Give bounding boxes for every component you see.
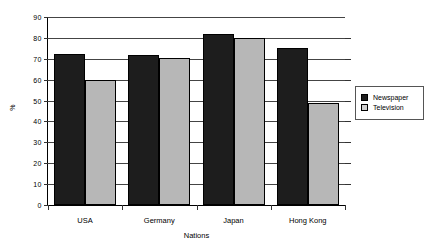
- x-axis-label: Hong Kong: [289, 216, 327, 225]
- bar-newspaper-usa: [54, 54, 85, 205]
- bar-newspaper-hong-kong: [277, 48, 308, 205]
- bar-chart: % 0102030405060708090 USAGermanyJapanHon…: [0, 0, 430, 241]
- right-axis-tick: [345, 142, 351, 143]
- x-axis-tick: [345, 205, 346, 210]
- y-axis-tick-label: 90: [33, 14, 42, 21]
- right-axis-tick: [345, 38, 351, 39]
- y-axis-tick-label: 10: [33, 181, 42, 188]
- y-axis-tick-label: 30: [33, 139, 42, 146]
- y-axis-tick-label: 70: [33, 55, 42, 62]
- plot-area: 0102030405060708090 USAGermanyJapanHong …: [47, 17, 345, 206]
- y-axis-tick-label: 0: [38, 202, 42, 209]
- legend-label-newspaper: Newspaper: [373, 94, 408, 101]
- right-axis-tick: [345, 59, 351, 60]
- x-axis-tick: [48, 205, 49, 210]
- x-axis-title: Nations: [48, 231, 345, 240]
- legend: Newspaper Television: [355, 86, 424, 120]
- x-axis-tick: [197, 205, 198, 210]
- y-axis-tick-label: 20: [33, 160, 42, 167]
- legend-label-television: Television: [373, 104, 404, 111]
- y-axis-tick-label: 50: [33, 97, 42, 104]
- x-axis-label: USA: [77, 216, 92, 225]
- y-axis-tick-label: 40: [33, 118, 42, 125]
- y-axis-title: %: [9, 98, 16, 118]
- legend-swatch-newspaper-icon: [361, 94, 368, 101]
- legend-swatch-television-icon: [361, 104, 368, 111]
- bars-layer: [48, 17, 345, 205]
- bar-television-japan: [234, 38, 265, 205]
- bar-television-usa: [85, 80, 116, 205]
- right-axis-tick: [345, 163, 351, 164]
- x-axis-label: Germany: [144, 216, 175, 225]
- right-axis-tick: [345, 121, 351, 122]
- x-axis-tick: [271, 205, 272, 210]
- bar-television-germany: [159, 58, 190, 205]
- bar-group: [277, 17, 339, 205]
- right-axis-tick: [345, 80, 351, 81]
- x-axis-label: Japan: [223, 216, 243, 225]
- x-axis-tick: [122, 205, 123, 210]
- bar-newspaper-japan: [203, 34, 234, 205]
- bar-group: [54, 17, 116, 205]
- bar-group: [203, 17, 265, 205]
- bar-television-hong-kong: [308, 103, 339, 205]
- y-axis-tick-label: 60: [33, 76, 42, 83]
- legend-item-television: Television: [361, 104, 419, 111]
- bar-group: [128, 17, 190, 205]
- legend-item-newspaper: Newspaper: [361, 94, 419, 101]
- right-axis-tick: [345, 184, 351, 185]
- bar-newspaper-germany: [128, 55, 159, 205]
- y-axis-tick-label: 80: [33, 34, 42, 41]
- right-axis-tick: [345, 101, 351, 102]
